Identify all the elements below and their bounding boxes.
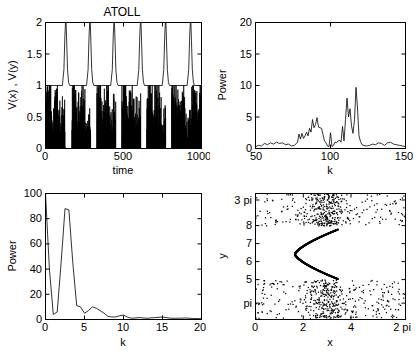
phase-scatter-ytick-5: pi — [243, 297, 252, 309]
subplot-power-k0-20: 0 20 40 60 80 100 0 5 10 15 20 — [0, 180, 210, 351]
phase-scatter-ytick-4: 5 — [246, 273, 252, 285]
power-k50-150-xtick-0: 50 — [250, 150, 262, 162]
subplot-power-k50-150: 0 5 10 15 20 50 100 150 k Power — [210, 0, 419, 180]
power-k0-20-ytick-4: 80 — [30, 212, 42, 224]
power-k0-20-line — [46, 194, 202, 319]
power-k50-150-y-ticks — [256, 23, 406, 149]
subplot-phase-scatter: 3 pi 8 7 6 5 pi 0 2 4 2 pi x y — [210, 180, 419, 351]
power-k0-20-xtick-0: 0 — [42, 321, 48, 333]
phase-scatter-ytick-2: 7 — [246, 237, 252, 249]
timeseries-title: ATOLL — [104, 5, 141, 19]
power-k0-20-ytick-1: 20 — [30, 288, 42, 300]
power-k0-20-ytick-2: 40 — [30, 263, 42, 275]
timeseries-ytick-2: 1 — [36, 79, 42, 91]
timeseries-axes: ATOLL 0 0.5 1 1.5 2 — [0, 0, 210, 180]
power-k50-150-frame — [256, 23, 406, 149]
phase-scatter-ytick-0: 3 pi — [234, 194, 252, 206]
power-k50-150-ytick-3: 15 — [240, 48, 252, 60]
timeseries-xtick-1: 500 — [114, 150, 132, 162]
power-k0-20-ylabel: Power — [6, 240, 18, 272]
timeseries-ytick-3: 1.5 — [27, 48, 42, 60]
power-k0-20-axes: 0 20 40 60 80 100 0 5 10 15 20 — [0, 180, 210, 351]
power-k50-150-x-ticks — [256, 23, 406, 149]
power-k50-150-axes: 0 5 10 15 20 50 100 150 k Power — [210, 0, 419, 180]
timeseries-ylabel: V(x) , V(y) — [6, 60, 18, 110]
phase-scatter-xtick-3: 2 pi — [393, 321, 411, 333]
phase-scatter-axes: 3 pi 8 7 6 5 pi 0 2 4 2 pi x y — [210, 180, 419, 351]
power-k50-150-line — [256, 87, 406, 146]
phase-scatter-xtick-1: 2 — [300, 321, 306, 333]
timeseries-xtick-0: 0 — [42, 150, 48, 162]
timeseries-spike-trace — [46, 23, 202, 86]
power-k0-20-xlabel: k — [120, 336, 126, 348]
phase-scatter-points — [255, 193, 405, 319]
power-k0-20-xtick-1: 5 — [81, 321, 87, 333]
power-k50-150-ytick-2: 10 — [240, 79, 252, 91]
power-k50-150-ytick-4: 20 — [240, 16, 252, 28]
timeseries-ytick-1: 0.5 — [27, 111, 42, 123]
timeseries-xlabel: time — [113, 164, 134, 176]
subplot-timeseries: ATOLL 0 0.5 1 1.5 2 — [0, 0, 210, 180]
power-k0-20-xtick-3: 15 — [156, 321, 168, 333]
timeseries-burst-trace — [46, 86, 201, 149]
phase-scatter-xtick-2: 4 — [348, 321, 354, 333]
power-k50-150-xlabel: k — [327, 164, 333, 176]
power-k0-20-xtick-2: 10 — [117, 321, 129, 333]
phase-scatter-curve — [294, 229, 339, 280]
power-k0-20-xtick-4: 20 — [194, 321, 206, 333]
phase-scatter-ytick-3: 6 — [246, 255, 252, 267]
phase-scatter-ylabel: y — [216, 253, 228, 259]
power-k0-20-ytick-5: 100 — [24, 187, 42, 199]
figure-canvas: ATOLL 0 0.5 1 1.5 2 — [0, 0, 419, 351]
timeseries-xtick-2: 1000 — [187, 150, 210, 162]
phase-scatter-xlabel: x — [327, 336, 333, 348]
power-k50-150-ytick-1: 5 — [246, 111, 252, 123]
phase-scatter-ytick-1: 8 — [246, 219, 252, 231]
power-k50-150-xtick-2: 150 — [395, 150, 413, 162]
power-k50-150-ylabel: Power — [216, 69, 228, 101]
power-k50-150-xtick-1: 100 — [321, 150, 339, 162]
phase-scatter-xtick-0: 0 — [252, 321, 258, 333]
timeseries-ytick-4: 2 — [36, 16, 42, 28]
power-k0-20-ytick-3: 60 — [30, 237, 42, 249]
